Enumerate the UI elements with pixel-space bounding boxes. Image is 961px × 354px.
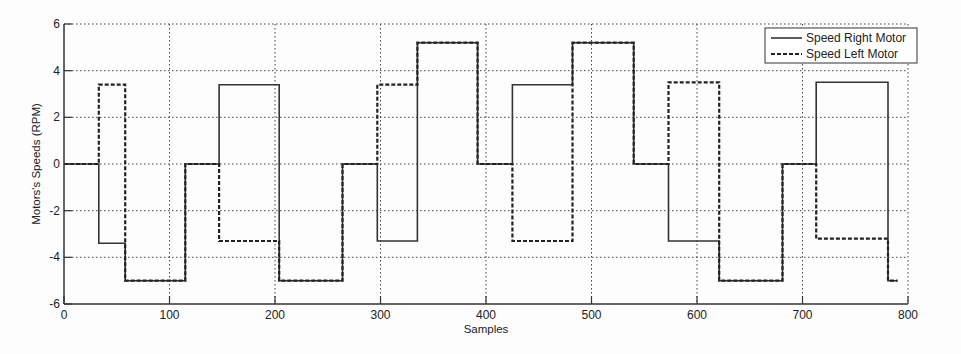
chart-figure: 0100200300400500600700800 -6-4-20246 Sam… — [0, 0, 961, 354]
y-tick-label: 2 — [53, 110, 60, 124]
legend-entry-left-motor: Speed Left Motor — [806, 47, 898, 61]
x-tick-label: 500 — [581, 308, 601, 322]
legend: Speed Right Motor Speed Left Motor — [765, 28, 917, 63]
x-tick-label: 100 — [159, 308, 179, 322]
y-tick-label: 6 — [53, 17, 60, 31]
y-tick-label: 0 — [53, 157, 60, 171]
x-tick-label: 800 — [898, 308, 918, 322]
x-tick-label: 200 — [265, 308, 285, 322]
x-tick-label: 300 — [370, 308, 390, 322]
y-tick-label: -4 — [49, 250, 60, 264]
y-tick-label: -6 — [49, 297, 60, 311]
x-tick-label: 700 — [792, 308, 812, 322]
series-left-motor — [64, 43, 898, 281]
legend-entry-right-motor: Speed Right Motor — [806, 31, 906, 45]
x-axis-tick-labels: 0100200300400500600700800 — [61, 308, 919, 322]
chart-canvas: 0100200300400500600700800 -6-4-20246 Sam… — [0, 0, 961, 354]
y-tick-label: -2 — [49, 204, 60, 218]
series-right-motor — [64, 43, 898, 281]
x-tick-label: 600 — [687, 308, 707, 322]
x-axis-label: Samples — [464, 323, 509, 335]
y-axis-label: Motors's Speeds (RPM) — [30, 103, 42, 225]
x-tick-label: 400 — [476, 308, 496, 322]
y-axis-tick-labels: -6-4-20246 — [49, 17, 60, 311]
data-series — [64, 43, 898, 281]
x-tick-label: 0 — [61, 308, 68, 322]
y-tick-label: 4 — [53, 64, 60, 78]
